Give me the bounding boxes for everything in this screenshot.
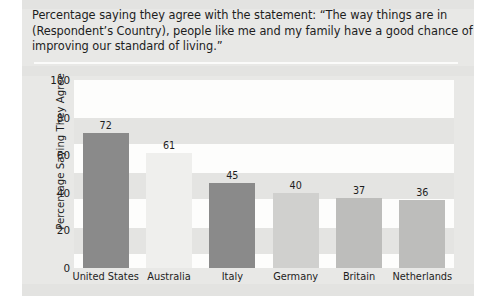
bar-chart: Percentage Saying They Agree 02040608010…	[22, 70, 474, 292]
x-axis-tick-label: Australia	[147, 271, 190, 282]
y-axis-tick-label: 20	[24, 224, 70, 236]
bar: 40	[273, 193, 319, 268]
y-axis-tick-label: 0	[24, 262, 70, 274]
x-axis-tick-label: Italy	[222, 271, 243, 282]
y-axis-tick-label: 80	[24, 112, 70, 124]
y-axis-tick-label: 40	[24, 187, 70, 199]
plot-band	[74, 228, 454, 254]
bar-value-label: 40	[290, 180, 302, 191]
x-axis-tick-label: Netherlands	[392, 271, 452, 282]
bar: 37	[336, 198, 382, 268]
content-panel: Percentage saying they agree with the st…	[22, 0, 474, 296]
x-axis-tick-label: Germany	[273, 271, 318, 282]
chart-title-line-2: (Respondent’s Country), people like me a…	[32, 24, 460, 40]
plot-area: 726145403736	[74, 80, 454, 268]
bar-value-label: 61	[163, 140, 175, 151]
bar-value-label: 45	[226, 170, 238, 181]
bar-value-label: 36	[416, 187, 428, 198]
title-divider	[34, 62, 458, 64]
y-axis-tick-label: 60	[24, 149, 70, 161]
y-axis-ticks: 020406080100	[22, 80, 70, 268]
bar: 36	[399, 200, 445, 268]
x-axis-tick-label: Britain	[343, 271, 375, 282]
bar-value-label: 72	[100, 120, 112, 131]
bar: 45	[209, 183, 255, 268]
scanned-page: Percentage saying they agree with the st…	[0, 0, 491, 307]
bar: 61	[146, 153, 192, 268]
chart-title-line-3: improving our standard of living.”	[32, 39, 460, 55]
plot-band	[74, 118, 454, 144]
bar: 72	[83, 133, 129, 268]
y-axis-tick-label: 100	[24, 74, 70, 86]
x-axis-tick-label: United States	[72, 271, 138, 282]
bar-value-label: 37	[353, 185, 365, 196]
chart-title: Percentage saying they agree with the st…	[32, 8, 460, 55]
plot-band	[74, 173, 454, 199]
chart-title-line-1: Percentage saying they agree with the st…	[32, 8, 460, 24]
